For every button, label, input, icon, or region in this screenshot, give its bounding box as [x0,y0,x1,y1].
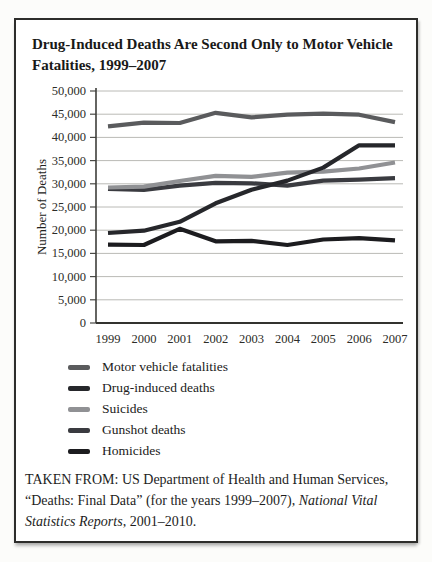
y-tick-label: 10,000 [52,269,86,283]
x-tick-label: 2007 [383,332,408,346]
x-tick-label: 1999 [96,332,121,346]
y-tick-label: 30,000 [52,176,86,190]
legend-item: Suicides [68,399,416,420]
legend-swatch [68,386,90,391]
x-tick-label: 2000 [131,332,156,346]
x-tick-label: 2005 [311,332,336,346]
y-tick-label: 40,000 [52,130,86,144]
legend-item: Drug-induced deaths [68,378,416,399]
series-motor-vehicle-fatalities [108,112,395,126]
y-tick-label: 20,000 [52,223,86,237]
legend-label: Gunshot deaths [102,422,186,438]
legend-item: Gunshot deaths [68,420,416,441]
y-tick-label: 0 [80,316,86,330]
source-note: TAKEN FROM: US Department of Health and … [25,469,404,532]
line-chart: 05,00010,00015,00020,00025,00030,00035,0… [16,85,416,353]
legend-label: Motor vehicle fatalities [102,359,228,375]
x-tick-label: 2004 [275,332,301,346]
series-homicides [108,228,395,244]
y-tick-label: 15,000 [52,246,86,260]
y-tick-label: 25,000 [52,200,86,214]
x-tick-label: 2003 [239,332,264,346]
legend-swatch [68,407,90,412]
y-tick-label: 35,000 [52,153,86,167]
chart-legend: Motor vehicle fatalitiesDrug-induced dea… [68,357,416,462]
y-tick-label: 45,000 [52,107,86,121]
figure-box: Drug-Induced Deaths Are Second Only to M… [14,18,418,543]
legend-item: Homicides [68,441,416,462]
y-tick-label: 5,000 [58,292,86,306]
legend-swatch [68,428,90,433]
legend-label: Homicides [102,443,161,459]
legend-swatch [68,449,90,454]
chart-area: 05,00010,00015,00020,00025,00030,00035,0… [16,85,416,353]
legend-label: Drug-induced deaths [102,380,215,396]
figure-title: Drug-Induced Deaths Are Second Only to M… [32,34,408,77]
legend-swatch [68,365,90,370]
y-axis-title: Number of Deaths [34,159,49,255]
legend-label: Suicides [102,401,148,417]
x-tick-label: 2002 [203,332,228,346]
legend-item: Motor vehicle fatalities [68,357,416,378]
y-tick-label: 50,000 [52,85,86,98]
x-tick-label: 2006 [347,332,372,346]
source-text-suffix: , 2001–2010. [123,514,197,529]
x-tick-label: 2001 [167,332,192,346]
